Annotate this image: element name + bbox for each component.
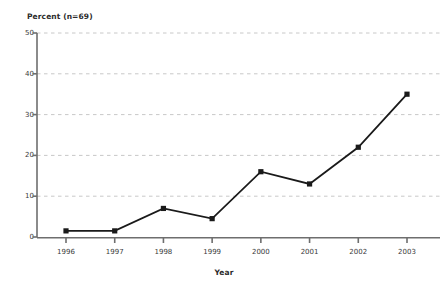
x-axis-ticks bbox=[66, 238, 407, 243]
x-axis-tick-label: 1996 bbox=[46, 248, 86, 256]
data-point-marker bbox=[307, 181, 312, 186]
data-point-marker bbox=[112, 228, 117, 233]
data-point-marker bbox=[161, 206, 166, 211]
x-axis-tick-label: 2002 bbox=[338, 248, 378, 256]
x-axis-tick-labels: 19961997199819992000200120022003 bbox=[0, 248, 448, 268]
x-axis-tick-label: 1998 bbox=[143, 248, 183, 256]
axis-lines bbox=[37, 33, 440, 238]
data-point-marker bbox=[210, 216, 215, 221]
line-chart: Percent (n=69) 01020304050 1996199719981… bbox=[0, 0, 448, 291]
x-axis-tick-label: 2003 bbox=[387, 248, 427, 256]
data-point-marker bbox=[356, 145, 361, 150]
data-point-marker bbox=[404, 92, 409, 97]
data-point-marker bbox=[258, 169, 263, 174]
x-axis-tick-label: 2001 bbox=[290, 248, 330, 256]
data-point-markers bbox=[63, 92, 409, 234]
x-axis-tick-label: 1997 bbox=[95, 248, 135, 256]
data-point-marker bbox=[63, 228, 68, 233]
x-axis-title: Year bbox=[0, 268, 448, 277]
x-axis-tick-label: 2000 bbox=[241, 248, 281, 256]
gridlines bbox=[37, 33, 440, 196]
x-axis-tick-label: 1999 bbox=[192, 248, 232, 256]
